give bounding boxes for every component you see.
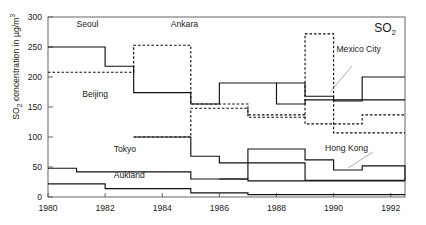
y-tick-label: 50 [32,162,42,172]
y-tick-label: 300 [28,12,43,22]
series-label: Hong Kong [325,143,368,153]
series-label: Tokyo [114,144,137,154]
y-tick-label: 250 [28,42,43,52]
y-tick-label: 150 [28,102,43,112]
chart-container: SO2 concentration in µg/m3 0501001502002… [0,0,426,225]
x-tick-label: 1984 [153,203,172,213]
x-tick-label: 1986 [210,203,229,213]
x-tick-label: 1988 [267,203,286,213]
series-label: Seoul [77,19,99,29]
series-label: Mexico City [336,44,381,54]
y-tick-label: 200 [28,72,43,82]
x-tick-label: 1980 [38,203,57,213]
y-tick-label: 100 [28,132,43,142]
series-label: Beijing [82,89,108,99]
series-label: Aukland [114,170,145,180]
chart-plot-area: 050100150200250300 198019821984198619881… [0,0,426,225]
series-label: Ankara [171,19,198,29]
x-tick-label: 1990 [324,203,343,213]
x-tick-label: 1992 [381,203,400,213]
x-tick-label: 1982 [96,203,115,213]
y-tick-label: 0 [37,192,42,202]
